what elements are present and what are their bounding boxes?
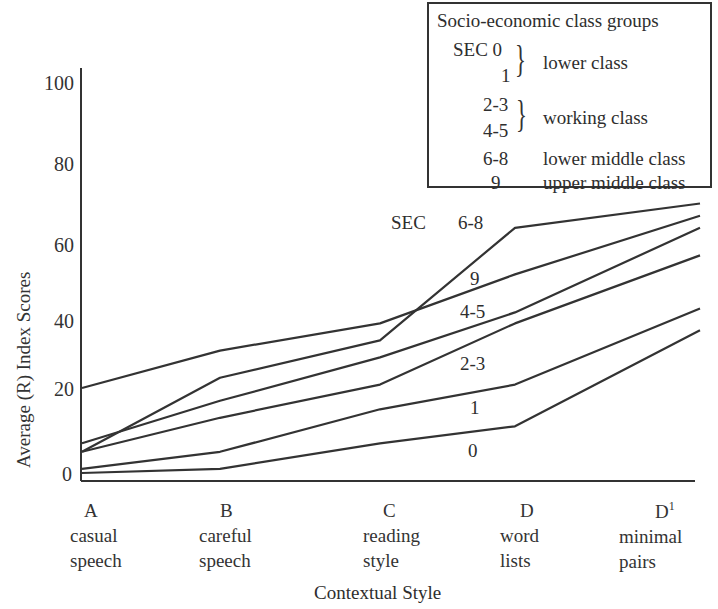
x-category-letter: D bbox=[655, 501, 669, 522]
y-tick-60: 60 bbox=[34, 235, 74, 255]
series-label-4-5: 4-5 bbox=[460, 302, 485, 321]
x-category-b: B careful speech bbox=[199, 498, 252, 573]
series-label-2-3: 2-3 bbox=[460, 354, 485, 373]
x-category-line1: word bbox=[500, 523, 539, 548]
y-tick-0: 0 bbox=[34, 464, 72, 484]
x-category-letter: B bbox=[199, 498, 252, 523]
legend-title: Socio-economic class groups bbox=[437, 11, 659, 30]
legend-code-sec0: SEC 0 bbox=[453, 40, 502, 59]
x-category-a: A casual speech bbox=[70, 498, 122, 573]
legend-group-working-class: working class bbox=[543, 108, 648, 127]
x-category-letter: A bbox=[70, 498, 122, 523]
legend-code-6-8: 6-8 bbox=[483, 149, 508, 168]
legend-code-4-5: 4-5 bbox=[483, 121, 508, 140]
series-lines bbox=[82, 204, 700, 474]
x-category-line2: style bbox=[363, 548, 420, 573]
x-category-line1: casual bbox=[70, 523, 122, 548]
legend-group-lower-middle-class: lower middle class bbox=[543, 149, 685, 168]
y-tick-80: 80 bbox=[34, 154, 74, 174]
x-category-line1: reading bbox=[363, 523, 420, 548]
x-category-line1: careful bbox=[199, 523, 252, 548]
x-category-c: C reading style bbox=[363, 498, 420, 573]
series-line-sec-9 bbox=[82, 216, 700, 388]
x-category-letter: C bbox=[363, 498, 420, 523]
x-axis-label: Contextual Style bbox=[314, 583, 441, 602]
x-category-line2: lists bbox=[500, 548, 539, 573]
brace-icon: } bbox=[516, 95, 527, 133]
x-category-letter: D bbox=[500, 498, 539, 523]
x-category-line2: pairs bbox=[619, 549, 682, 574]
x-category-superscript: 1 bbox=[669, 499, 675, 513]
series-label-9: 9 bbox=[470, 269, 480, 288]
x-category-line2: speech bbox=[199, 548, 252, 573]
brace-icon: } bbox=[515, 40, 526, 78]
x-category-line1: minimal bbox=[619, 524, 682, 549]
y-axis-label: Average (R) Index Scores bbox=[13, 272, 35, 468]
legend-code-9: 9 bbox=[491, 173, 501, 192]
legend-box: Socio-economic class groups SEC 0 1 } lo… bbox=[427, 2, 712, 188]
series-label-6-8: 6-8 bbox=[458, 213, 483, 232]
legend-group-upper-middle-class: upper middle class bbox=[543, 173, 685, 192]
x-category-d: D word lists bbox=[500, 498, 539, 573]
series-line-sec-4-5 bbox=[82, 228, 700, 443]
y-tick-20: 20 bbox=[34, 379, 74, 399]
legend-code-2-3: 2-3 bbox=[483, 95, 508, 114]
legend-group-lower-class: lower class bbox=[543, 53, 628, 72]
x-category-d1: D1 minimal pairs bbox=[619, 494, 682, 574]
y-tick-40: 40 bbox=[34, 311, 74, 331]
series-label-0: 0 bbox=[468, 441, 478, 460]
x-category-line2: speech bbox=[70, 548, 122, 573]
sec-annotation: SEC bbox=[391, 213, 426, 232]
series-label-1: 1 bbox=[470, 398, 480, 417]
legend-code-1: 1 bbox=[501, 66, 511, 85]
y-tick-100: 100 bbox=[34, 73, 74, 93]
